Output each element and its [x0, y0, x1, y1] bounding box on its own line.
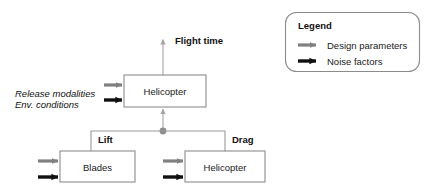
output-flight-time-group: Flight time	[163, 35, 223, 75]
input-label-release-modalities: Release modalities	[15, 88, 96, 99]
legend-label-design-parameters: Design parameters	[327, 40, 408, 51]
drag-connector-line	[163, 131, 225, 151]
flow-lift-group: Lift	[91, 131, 163, 151]
inputs-helicopter-bottom-group	[163, 161, 183, 177]
box-helicopter-top[interactable]: Helicopter	[124, 75, 206, 107]
drag-label: Drag	[232, 134, 254, 145]
flow-drag-group: Drag	[163, 131, 254, 151]
diagram-canvas: Flight time Helicopter Release modalitie…	[0, 0, 426, 196]
box-helicopter-top-label: Helicopter	[144, 86, 187, 97]
box-helicopter-bottom-label: Helicopter	[204, 162, 247, 173]
input-label-env-conditions: Env. conditions	[15, 99, 79, 110]
lift-label: Lift	[98, 134, 114, 145]
flight-time-label: Flight time	[175, 35, 223, 46]
legend-label-noise-factors: Noise factors	[327, 56, 383, 67]
box-helicopter-bottom[interactable]: Helicopter	[185, 151, 265, 182]
box-blades-label: Blades	[83, 162, 112, 173]
inputs-blades-group	[38, 161, 58, 177]
legend: Legend Design parameters Noise factors	[286, 13, 420, 72]
box-blades[interactable]: Blades	[60, 151, 135, 182]
legend-title: Legend	[298, 20, 332, 31]
diagram-svg: Flight time Helicopter Release modalitie…	[0, 0, 426, 196]
inputs-top-group: Release modalities Env. conditions	[15, 85, 122, 110]
